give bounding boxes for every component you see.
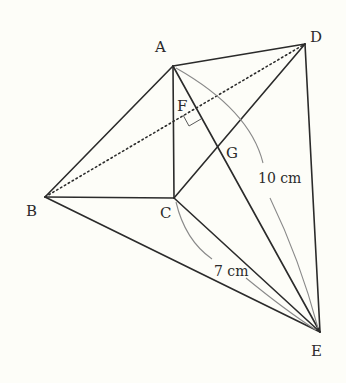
measure-label-ae: 10 cm (258, 170, 301, 186)
segment-ae (173, 66, 320, 332)
point-label-f: F (177, 97, 187, 115)
dimension-arc-ce (176, 202, 212, 259)
point-label-b: B (26, 202, 37, 220)
segment-ab (45, 66, 173, 197)
segment-de (305, 44, 320, 332)
segment-ac (173, 66, 174, 198)
right-angle-mark (183, 115, 201, 126)
segment-bc (45, 197, 174, 198)
point-label-d: D (310, 28, 322, 46)
point-label-g: G (226, 144, 238, 162)
point-label-c: C (160, 204, 171, 222)
point-label-a: A (154, 38, 166, 56)
geometry-figure: 10 cm 7 cm A B C D E F G (0, 0, 346, 383)
point-label-e: E (311, 342, 322, 360)
measure-label-ce: 7 cm (214, 263, 248, 279)
